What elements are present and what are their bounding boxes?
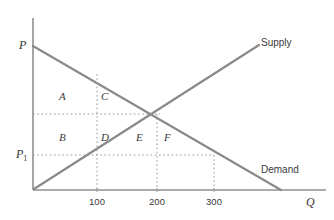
supply-demand-diagram: P P1 Q Supply Demand 100 200 300 A C B D…: [0, 0, 334, 220]
price-axis-label: P: [19, 39, 26, 51]
x-tick-label-200: 200: [143, 197, 171, 207]
x-tick-label-100: 100: [83, 197, 111, 207]
region-label-f: F: [164, 132, 171, 143]
price-floor-label: P1: [16, 148, 27, 163]
diagram-canvas: [0, 0, 334, 220]
x-tick-label-300: 300: [200, 197, 228, 207]
supply-curve-label: Supply: [261, 38, 292, 48]
quantity-axis-label: Q: [306, 196, 315, 208]
demand-curve-label: Demand: [261, 165, 299, 175]
region-label-a: A: [59, 91, 66, 102]
region-label-b: B: [59, 132, 66, 143]
region-label-d: D: [101, 132, 109, 143]
price-floor-subscript: 1: [23, 154, 27, 163]
region-label-e: E: [136, 132, 143, 143]
region-label-c: C: [101, 91, 108, 102]
demand-curve: [33, 46, 281, 190]
